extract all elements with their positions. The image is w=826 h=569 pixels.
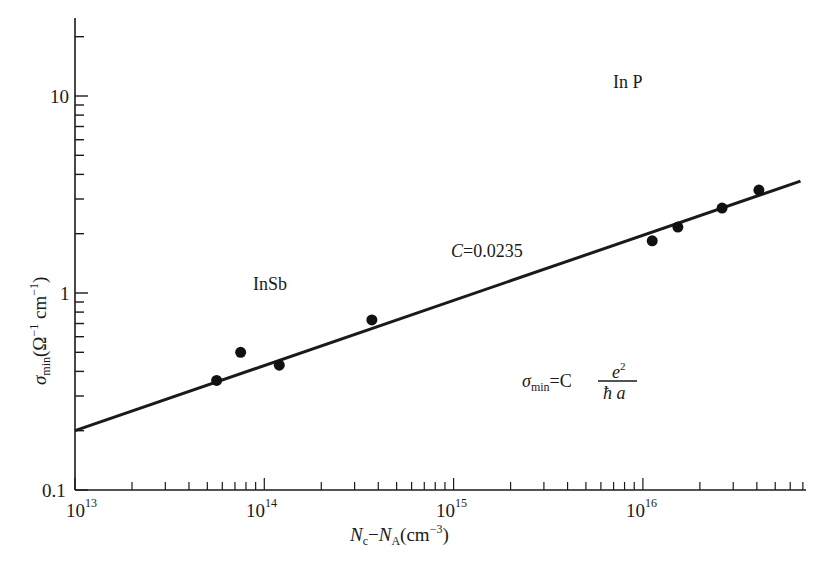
y-ticks bbox=[75, 37, 88, 490]
data-point bbox=[235, 347, 246, 358]
svg-text:σmin=C: σmin=C bbox=[522, 371, 572, 394]
annotation-insb: InSb bbox=[253, 274, 287, 294]
x-tick-label-1e15: 10 15 bbox=[436, 496, 467, 521]
svg-text:13: 13 bbox=[85, 496, 97, 510]
data-point bbox=[366, 314, 377, 325]
x-ticks bbox=[75, 478, 803, 490]
x-tick-label-1e14: 10 14 bbox=[246, 496, 277, 521]
svg-text:e2: e2 bbox=[612, 360, 626, 382]
svg-text:Nc−NA(cm−3): Nc−NA(cm−3) bbox=[349, 522, 449, 548]
data-point bbox=[274, 360, 285, 371]
y-tick-label-0.1: 0.1 bbox=[42, 480, 66, 501]
data-point bbox=[211, 375, 222, 386]
svg-text:15: 15 bbox=[455, 496, 467, 510]
svg-text:10: 10 bbox=[66, 500, 85, 521]
svg-text:14: 14 bbox=[265, 496, 277, 510]
data-point bbox=[717, 203, 728, 214]
svg-text:σmin(Ω−1 cm−1): σmin(Ω−1 cm−1) bbox=[27, 277, 53, 385]
chart: 10 1 0.1 10 13 10 14 10 15 10 16 Nc−NA(c… bbox=[0, 0, 826, 569]
svg-text:C=0.0235: C=0.0235 bbox=[451, 241, 523, 261]
formula: σmin=C e2 ħ a bbox=[522, 360, 637, 403]
data-point bbox=[672, 222, 683, 233]
fit-line bbox=[75, 181, 800, 431]
svg-text:16: 16 bbox=[645, 496, 657, 510]
annotation-inp: In P bbox=[613, 72, 643, 92]
y-axis-label: σmin(Ω−1 cm−1) bbox=[27, 277, 53, 385]
svg-text:10: 10 bbox=[246, 500, 265, 521]
data-point bbox=[753, 185, 764, 196]
svg-text:10: 10 bbox=[436, 500, 455, 521]
x-tick-label-1e16: 10 16 bbox=[626, 496, 657, 521]
x-tick-label-1e13: 10 13 bbox=[66, 496, 97, 521]
svg-text:ħ a: ħ a bbox=[603, 383, 626, 403]
y-tick-label-10: 10 bbox=[50, 86, 69, 107]
data-point bbox=[647, 235, 658, 246]
annotation-c-value: C=0.0235 bbox=[451, 241, 523, 261]
svg-text:10: 10 bbox=[626, 500, 645, 521]
x-axis-label: Nc−NA(cm−3) bbox=[349, 522, 449, 548]
y-tick-label-1: 1 bbox=[60, 283, 70, 304]
